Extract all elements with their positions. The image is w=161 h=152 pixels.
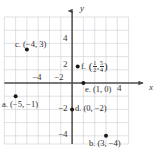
point-f bbox=[76, 65, 80, 69]
plot-canvas bbox=[0, 0, 161, 152]
point-a bbox=[14, 94, 18, 98]
point-e bbox=[81, 81, 85, 85]
point-b bbox=[104, 134, 108, 138]
point-d bbox=[70, 107, 74, 111]
point-c bbox=[25, 47, 29, 51]
grid-vertical-lines bbox=[4, 17, 128, 144]
coordinate-plane-figure: y x −4 −2 4 4 2 −2 −4 c. (−4, 3) a. (−5,… bbox=[0, 0, 161, 152]
grid-horizontal-lines bbox=[4, 17, 128, 144]
